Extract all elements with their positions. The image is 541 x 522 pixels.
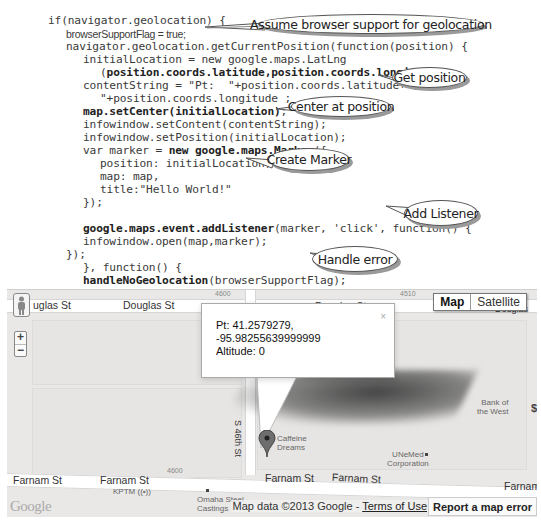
callout-bubble: Assume browser support for geolocation xyxy=(258,14,484,34)
street-label: Farnam St xyxy=(100,474,149,486)
code-bold: google.maps.event.addListener xyxy=(83,222,274,235)
info-window: Pt: 41.2579279, -95.98255639999999 Altit… xyxy=(201,303,395,378)
street-label: Farnam St xyxy=(332,471,382,486)
bank-icon: $ xyxy=(531,402,537,414)
poi-bank-of-the-west[interactable]: Bank of the West xyxy=(477,398,508,416)
map-block xyxy=(32,388,242,478)
infowindow-tail xyxy=(247,376,307,456)
block-number: 4510 xyxy=(400,290,416,297)
close-icon[interactable]: × xyxy=(380,311,386,322)
code-listing: if(navigator.geolocation) { browserSuppo… xyxy=(0,0,541,280)
poi-dot-icon xyxy=(206,489,209,492)
callout-bubble: Handle error xyxy=(312,246,398,272)
code-line: }); xyxy=(83,196,103,209)
poi-dot-icon xyxy=(425,453,428,456)
code-line: google.maps.event.addListener(marker, 'c… xyxy=(83,222,472,235)
map-footer: Google Map data ©2013 Google - Terms of … xyxy=(7,495,537,517)
map-type-satellite-button[interactable]: Satellite xyxy=(471,294,526,310)
map-type-control: Map Satellite xyxy=(433,293,527,311)
code-line: if(navigator.geolocation) { xyxy=(48,14,226,27)
infowindow-altitude: Altitude: 0 xyxy=(216,345,394,358)
code-line: title:"Hello World!" xyxy=(100,183,232,196)
code-line: navigator.geolocation.getCurrentPosition… xyxy=(66,40,468,53)
map-view[interactable]: uglas St Douglas St Douglas St Douglas 4… xyxy=(7,289,537,517)
zoom-out-button[interactable]: − xyxy=(15,344,26,356)
code-line: infowindow.setPosition(initialLocation); xyxy=(83,131,346,144)
street-view-pegman[interactable] xyxy=(13,293,30,317)
report-map-error-link[interactable]: Report a map error xyxy=(428,497,537,516)
callout-bubble: Get position xyxy=(392,67,467,88)
map-marker-icon[interactable] xyxy=(258,430,276,458)
code-line: map.setCenter(initialLocation); xyxy=(83,105,287,118)
code-line: infowindow.open(map,marker); xyxy=(83,235,267,248)
map-type-map-button[interactable]: Map xyxy=(434,294,471,310)
terms-of-use-link[interactable]: Terms of Use xyxy=(362,500,427,512)
callout-bubble: Create Marker xyxy=(268,148,350,171)
code-line: "+position.coords.longitude ; xyxy=(100,92,291,105)
street-label: Farnam St xyxy=(13,474,62,486)
code-line: map: map, xyxy=(100,170,159,183)
callout-bubble: Center at position xyxy=(291,96,391,117)
street-label: S 46th St xyxy=(233,420,243,457)
callout-bubble: Add Listener xyxy=(404,200,478,226)
street-label: Douglas St xyxy=(123,299,174,311)
code-line: infowindow.setContent(contentString); xyxy=(83,118,327,131)
infowindow-content: Pt: 41.2579279, -95.98255639999999 Altit… xyxy=(216,319,394,358)
poi-unemed[interactable]: UNeMed Corporation xyxy=(387,450,429,468)
map-data-text: Map data ©2013 Google - xyxy=(233,500,363,512)
code-bold: handleNoGeolocation xyxy=(83,274,208,287)
code-line: }); xyxy=(66,248,86,261)
pegman-icon xyxy=(16,296,27,315)
block-number: 4600 xyxy=(215,290,231,297)
street-label: Farnam St xyxy=(265,472,314,484)
block-number: 4600 xyxy=(167,467,183,474)
google-logo[interactable]: Google xyxy=(10,498,51,515)
code-line: handleNoGeolocation(browserSupportFlag); xyxy=(83,274,346,287)
code-line: contentString = "Pt: "+position.coords.l… xyxy=(83,79,419,92)
zoom-control: + − xyxy=(14,331,27,357)
map-attribution: Map data ©2013 Google - Terms of Use xyxy=(231,500,429,512)
street-label: Farnam xyxy=(504,480,537,492)
infowindow-position: Pt: 41.2579279, -95.98255639999999 xyxy=(216,319,394,345)
code-line: initialLocation = new google.maps.LatLng xyxy=(83,53,346,66)
code-bold: map.setCenter(initialLocation) xyxy=(83,105,281,118)
street-label: uglas St xyxy=(33,299,71,311)
code-line: }, function() { xyxy=(83,261,182,274)
